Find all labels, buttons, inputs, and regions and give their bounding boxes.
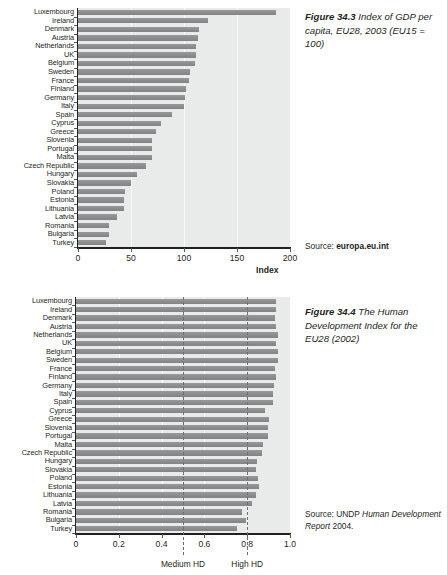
bar xyxy=(76,374,276,379)
category-label: Slovakia xyxy=(45,466,72,473)
bar xyxy=(76,324,276,329)
category-tick xyxy=(72,466,75,467)
category-label: Czech Republic xyxy=(24,162,74,169)
category-label: UK xyxy=(62,339,72,346)
x-axis-tick-label: 200 xyxy=(270,253,310,263)
category-tick xyxy=(74,162,77,163)
category-tick xyxy=(74,196,77,197)
bar xyxy=(76,425,268,430)
x-axis-tick-label: 0.6 xyxy=(184,539,224,549)
bar xyxy=(76,501,252,506)
category-tick xyxy=(74,153,77,154)
bar xyxy=(78,180,131,185)
side-column-hdi: Figure 34.4 The Human Development Index … xyxy=(305,290,447,575)
bar xyxy=(78,138,152,143)
bar xyxy=(78,206,124,211)
bar xyxy=(76,417,269,422)
category-tick xyxy=(74,221,77,222)
category-label: Belgium xyxy=(48,59,74,66)
bar xyxy=(78,69,190,74)
category-label: Romania xyxy=(43,508,72,515)
category-label: Sweden xyxy=(48,68,74,75)
x-axis-tick xyxy=(290,248,291,252)
bar xyxy=(76,400,273,405)
category-tick xyxy=(72,390,75,391)
bar xyxy=(78,146,152,151)
x-axis-tick xyxy=(76,534,77,538)
category-label: Bulgaria xyxy=(48,230,74,237)
category-tick xyxy=(72,348,75,349)
category-tick xyxy=(74,136,77,137)
category-label: Lithuania xyxy=(43,491,72,498)
plot-area-gdp xyxy=(78,8,290,247)
bar xyxy=(78,104,184,109)
category-tick xyxy=(74,170,77,171)
category-tick xyxy=(72,305,75,306)
figure-gdp-index: LuxembourgIrelandDenmarkAustriaNetherlan… xyxy=(0,0,447,290)
category-tick xyxy=(74,51,77,52)
x-axis-tick xyxy=(78,248,79,252)
category-label: Ireland xyxy=(50,306,72,313)
category-label: Italy xyxy=(59,390,72,397)
category-label: Hungary xyxy=(47,170,74,177)
bar xyxy=(76,433,268,438)
category-label: Ireland xyxy=(52,17,74,24)
x-axis-tick xyxy=(131,248,132,252)
bar xyxy=(78,86,186,91)
bar xyxy=(78,197,124,202)
category-tick xyxy=(72,449,75,450)
category-tick xyxy=(74,213,77,214)
category-tick xyxy=(72,457,75,458)
category-tick xyxy=(72,474,75,475)
bar xyxy=(78,52,196,57)
category-label: Germany xyxy=(44,94,74,101)
bar xyxy=(78,172,137,177)
figure-caption-hdi: Figure 34.4 The Human Development Index … xyxy=(305,305,441,346)
category-tick xyxy=(74,59,77,60)
category-label: Latvia xyxy=(55,213,74,220)
category-tick xyxy=(74,42,77,43)
bar xyxy=(76,518,246,523)
category-tick xyxy=(72,314,75,315)
bar xyxy=(78,27,199,32)
bar xyxy=(76,484,259,489)
category-label: Netherlands xyxy=(33,331,72,338)
category-label: Spain xyxy=(56,111,74,118)
x-axis-tick-label: 1.0 xyxy=(270,539,310,549)
category-tick xyxy=(74,119,77,120)
x-axis-tick xyxy=(162,534,163,538)
source-note-gdp: Source: europa.eu.int xyxy=(305,241,445,253)
category-tick xyxy=(72,440,75,441)
category-tick xyxy=(72,525,75,526)
category-tick xyxy=(72,499,75,500)
bar xyxy=(76,299,276,304)
category-tick xyxy=(74,179,77,180)
category-label: Lithuania xyxy=(45,205,74,212)
category-tick xyxy=(74,145,77,146)
bar xyxy=(78,129,156,134)
category-tick xyxy=(74,230,77,231)
bar xyxy=(78,121,161,126)
category-label: Finland xyxy=(48,373,72,380)
bar xyxy=(76,383,274,388)
bar xyxy=(78,78,189,83)
bar xyxy=(76,509,242,514)
category-label: Estonia xyxy=(50,196,74,203)
bar xyxy=(76,467,256,472)
category-tick xyxy=(74,238,77,239)
category-tick xyxy=(72,415,75,416)
source-prefix-hdi: Source: UNDP xyxy=(305,509,360,519)
bar xyxy=(76,476,258,481)
threshold-line xyxy=(247,297,248,555)
category-label: Bulgaria xyxy=(46,516,72,523)
x-axis-tick xyxy=(119,534,120,538)
category-label: Luxembourg xyxy=(32,297,72,304)
bar xyxy=(76,442,263,447)
x-axis-tick-label: 0 xyxy=(58,253,98,263)
bar xyxy=(76,366,275,371)
category-label: Slovenia xyxy=(44,424,72,431)
category-tick xyxy=(74,17,77,18)
bar xyxy=(78,112,172,117)
category-tick xyxy=(72,508,75,509)
chart-hdi: LuxembourgIrelandDenmarkAustriaNetherlan… xyxy=(0,290,300,575)
